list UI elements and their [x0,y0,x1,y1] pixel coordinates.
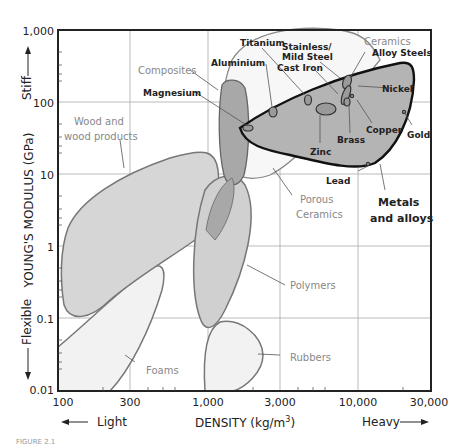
svg-text:Gold: Gold [407,130,430,140]
ashby-chart: 1,000 100 10 1 0.1 0.01 100 300 1,000 3,… [0,0,459,447]
point-titanium [305,95,312,105]
svg-text:Stiff: Stiff [20,75,34,100]
svg-text:300: 300 [120,396,141,409]
point-brass [350,94,353,97]
svg-text:Mild Steel: Mild Steel [282,52,333,62]
point-aluminium [269,107,277,117]
svg-text:Metals: Metals [378,196,420,209]
svg-text:Nickel: Nickel [382,84,413,94]
svg-text:Composites: Composites [138,65,197,76]
svg-text:Ceramics: Ceramics [364,36,411,47]
svg-text:Titanium: Titanium [240,38,285,48]
svg-text:10,000: 10,000 [339,396,378,409]
svg-text:Aluminium: Aluminium [211,58,265,68]
svg-text:Rubbers: Rubbers [290,352,331,363]
svg-text:1: 1 [47,241,54,254]
svg-text:Porous: Porous [300,194,333,205]
point-copper [344,98,350,106]
svg-text:Cast Iron: Cast Iron [277,63,323,73]
point-zinc [316,103,336,115]
svg-text:wood products: wood products [64,131,138,142]
svg-text:and alloys: and alloys [370,212,434,225]
x-heavy-annotation: Heavy [362,415,429,429]
svg-text:30,000: 30,000 [410,396,449,409]
svg-text:Copper: Copper [366,125,403,135]
region-rubbers [204,321,263,391]
svg-text:0.01: 0.01 [30,384,55,397]
point-lead [366,162,369,165]
svg-text:Foams: Foams [146,365,179,376]
svg-text:10: 10 [40,169,54,182]
svg-text:Zinc: Zinc [310,147,331,157]
y-flexible-annotation: Flexible [20,299,34,380]
svg-text:0.1: 0.1 [37,313,55,326]
x-light-annotation: Light [61,415,127,429]
x-axis-title: DENSITY (kg/m3) [195,415,295,430]
x-tick-labels: 100 300 1,000 3,000 10,000 30,000 [53,396,449,409]
svg-text:100: 100 [53,396,74,409]
svg-text:1,000: 1,000 [192,396,224,409]
svg-text:Brass: Brass [337,135,365,145]
svg-text:1,000: 1,000 [23,25,55,38]
figure-caption: FIGURE 2.1 [16,438,55,446]
svg-text:100: 100 [33,97,54,110]
svg-text:Lead: Lead [326,176,350,186]
svg-text:Polymers: Polymers [290,280,336,291]
svg-text:Wood and: Wood and [74,116,124,127]
svg-text:Alloy Steels: Alloy Steels [372,48,432,58]
svg-text:Light: Light [97,415,127,429]
svg-text:Stainless/: Stainless/ [282,42,332,52]
svg-text:Heavy: Heavy [362,415,400,429]
svg-text:Magnesium: Magnesium [143,88,201,98]
y-stiff-annotation: Stiff [20,46,34,100]
svg-text:Ceramics: Ceramics [296,209,343,220]
svg-text:3,000: 3,000 [264,396,296,409]
svg-text:Flexible: Flexible [20,299,34,345]
y-axis-title: YOUNG'S MODULUS (GPa) [22,133,36,289]
regions [58,28,414,391]
